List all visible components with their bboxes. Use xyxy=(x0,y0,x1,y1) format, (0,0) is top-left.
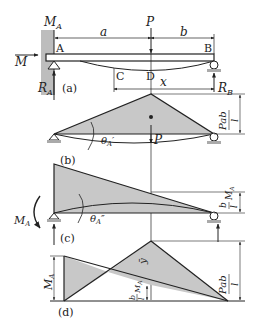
svg-text:P: P xyxy=(145,15,155,29)
svg-text:θA′: θA′ xyxy=(101,135,115,148)
svg-text:ȳ: ȳ xyxy=(137,258,148,265)
svg-text:B: B xyxy=(204,42,212,55)
moment-arrow xyxy=(34,196,40,228)
svg-text:MA: MA xyxy=(133,280,143,294)
svg-text:MA: MA xyxy=(43,15,62,31)
beam xyxy=(46,54,214,61)
svg-text:(a): (a) xyxy=(62,82,77,95)
centroid-dot xyxy=(149,115,153,119)
svg-text:b: b xyxy=(128,295,137,300)
svg-text:A: A xyxy=(55,42,65,55)
svg-text:(b): (b) xyxy=(60,154,76,167)
panel-d: MA ȳ b l MA Pab l (d) xyxy=(42,241,245,319)
svg-text:l: l xyxy=(229,283,240,286)
svg-text:l: l xyxy=(229,119,240,122)
svg-text:M: M xyxy=(14,55,28,69)
panel-b: θA′ P (b) Pab l xyxy=(47,94,245,167)
svg-text:l: l xyxy=(137,297,146,300)
svg-text:x: x xyxy=(160,75,167,89)
svg-text:MA: MA xyxy=(13,214,30,228)
moment-triangle xyxy=(54,94,214,134)
panel-c: θA″ MA (c) b l MA xyxy=(13,164,245,245)
moment-triangle xyxy=(54,164,214,213)
svg-text:θA″: θA″ xyxy=(90,213,105,226)
svg-text:b: b xyxy=(218,202,228,208)
svg-text:P: P xyxy=(153,133,163,147)
svg-text:C: C xyxy=(116,70,124,83)
svg-text:a: a xyxy=(100,25,107,39)
svg-text:MA: MA xyxy=(42,274,56,291)
svg-text:MA: MA xyxy=(224,186,235,201)
svg-text:(d): (d) xyxy=(58,306,74,319)
svg-text:RB: RB xyxy=(217,81,233,97)
svg-text:(c): (c) xyxy=(60,232,75,245)
roller-support-b xyxy=(210,61,218,69)
svg-text:Pab: Pab xyxy=(217,111,228,131)
svg-text:l: l xyxy=(229,205,239,208)
svg-text:b: b xyxy=(180,25,188,39)
panel-a: MA M a b P A B C D x RA (a) RB xyxy=(14,15,233,300)
svg-text:D: D xyxy=(146,70,155,83)
svg-text:Pab: Pab xyxy=(217,275,228,295)
beam-diagram: MA M a b P A B C D x RA (a) RB θA′ P (b)… xyxy=(0,0,258,327)
